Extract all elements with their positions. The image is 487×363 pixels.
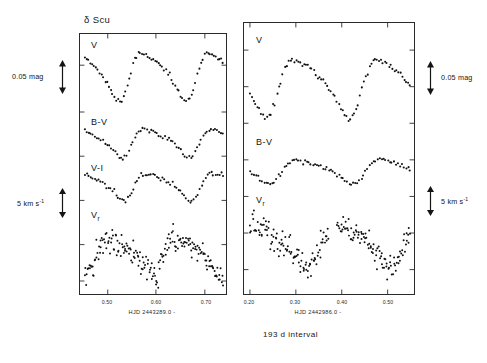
- right-xtick-label-3: 0.50: [383, 299, 394, 305]
- right-xtick-label-0: 0.20: [244, 299, 255, 305]
- left-xtick-label-1: 0.60: [151, 299, 162, 305]
- left-series-label-vr: Vr: [91, 210, 100, 222]
- left-series-label-vi: V-I: [91, 163, 104, 173]
- right-vel-scale-label: 5 km s-1: [441, 196, 468, 206]
- left-series-label-v: V: [91, 40, 98, 50]
- right-mag-scale-arrow: [424, 61, 437, 95]
- right-xtick-label-2: 0.40: [337, 299, 348, 305]
- right-axis-caption: HJD 2442986.0 -: [295, 309, 342, 315]
- star-name-title: δ Scu: [84, 14, 110, 25]
- right-panel-plot: [244, 23, 414, 294]
- left-mag-scale-label: 0.05 mag: [12, 72, 44, 81]
- left-mag-scale-arrow: [56, 60, 69, 94]
- right-series-label-bv: B-V: [256, 137, 273, 147]
- figure-canvas: δ Scu V B-V V-I Vr 0.50 0.60 0.70 HJD 24…: [0, 0, 487, 363]
- right-mag-scale-label: 0.05 mag: [441, 73, 473, 82]
- left-vel-scale-label: 5 km s-1: [17, 198, 44, 208]
- right-series-label-vr: Vr: [256, 195, 265, 207]
- right-series-label-v: V: [256, 35, 263, 45]
- right-panel-frame: V B-V Vr: [243, 22, 415, 295]
- left-axis-caption: HJD 2443289.0 -: [129, 309, 176, 315]
- right-xtick-label-1: 0.30: [290, 299, 301, 305]
- left-xtick-label-2: 0.70: [201, 299, 212, 305]
- left-xtick-label-0: 0.50: [102, 299, 113, 305]
- interval-caption: 193 d interval: [263, 330, 318, 339]
- left-vel-scale-arrow: [56, 188, 69, 218]
- left-series-label-bv: B-V: [91, 117, 108, 127]
- left-panel-frame: V B-V V-I Vr: [79, 33, 227, 295]
- right-vel-scale-arrow: [424, 186, 437, 216]
